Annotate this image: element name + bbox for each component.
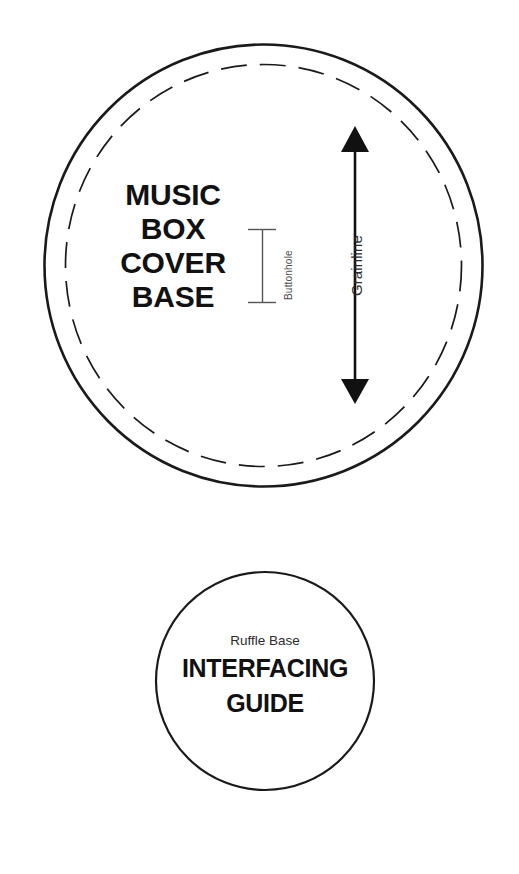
main-piece-title-line-3: COVER [83,246,263,280]
main-piece-title-line-4: BASE [83,280,263,314]
pattern-sheet: MUSIC BOX COVER BASE Buttonhole Grainlin… [0,0,519,874]
grainline-label: Grainline [349,235,364,296]
interfacing-guide-title-line-1: INTERFACING [155,652,375,684]
interfacing-guide-title-line-2: GUIDE [155,687,375,719]
buttonhole-label: Buttonhole [284,250,294,300]
main-piece-title-line-2: BOX [83,212,263,246]
pattern-vector-layer [0,0,519,874]
main-piece-title-line-1: MUSIC [83,178,263,212]
interfacing-guide-text: Ruffle Base INTERFACING GUIDE [155,632,375,719]
main-piece-title: MUSIC BOX COVER BASE [83,178,263,314]
interfacing-guide-subtitle: Ruffle Base [155,632,375,649]
